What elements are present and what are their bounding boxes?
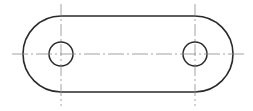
link-plate-drawing	[0, 0, 253, 111]
